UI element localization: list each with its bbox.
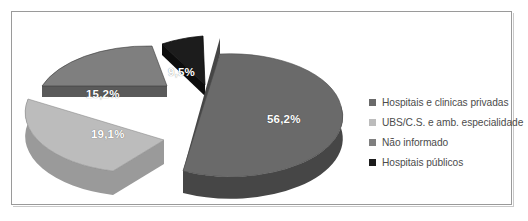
legend-item-nao-informado: Não informado [369, 132, 528, 152]
legend-item-hospitais-e-clinicas-privadas: Hospitais e clinicas privadas [369, 92, 528, 112]
legend-label-2: Não informado [382, 137, 448, 148]
legend-label-1: UBS/C.S. e amb. especialidade [382, 117, 523, 128]
pie-slice-2-top [42, 46, 167, 86]
legend-label-0: Hospitais e clinicas privadas [382, 97, 509, 108]
legend-swatch-icon-3 [369, 159, 376, 166]
pie-slice-value-label-0: 56,2% [267, 113, 301, 125]
pie-slice-hospitais-e-clinicas-privadas [183, 38, 343, 199]
figure-frame: 56,2% 19,1% 15,2% 9,5% Hospitais e clini… [11, 11, 512, 205]
legend-label-3: Hospitais públicos [382, 157, 463, 168]
pie-chart-plot-area: 56,2% 19,1% 15,2% 9,5% [24, 24, 364, 216]
legend-swatch-icon-2 [369, 139, 376, 146]
legend-item-hospitais-publicos: Hospitais públicos [369, 152, 528, 172]
pie-slice-value-label-3: 9,5% [168, 66, 195, 78]
legend-swatch-icon-1 [369, 119, 376, 126]
chart-screenshot: 56,2% 19,1% 15,2% 9,5% Hospitais e clini… [0, 0, 528, 221]
chart-legend: Hospitais e clinicas privadas UBS/C.S. e… [369, 92, 528, 172]
pie-slice-value-label-2: 15,2% [86, 88, 120, 100]
pie-chart-svg [24, 24, 364, 216]
pie-slice-value-label-1: 19,1% [91, 128, 125, 140]
legend-swatch-icon-0 [369, 99, 376, 106]
legend-item-ubs-cs-amb-especialidade: UBS/C.S. e amb. especialidade [369, 112, 528, 132]
pie-slice-ubs-cs-amb-especialidade [25, 99, 164, 195]
